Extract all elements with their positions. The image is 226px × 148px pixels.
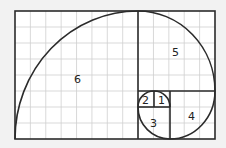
- square-6-label: 6: [74, 73, 81, 86]
- square-4-label: 4: [188, 110, 195, 123]
- square-1-label: 1: [158, 94, 165, 107]
- fibonacci-spiral-diagram: 6 5 4 3 2 1: [0, 0, 226, 148]
- square-5-label: 5: [172, 46, 179, 59]
- square-2-label: 2: [142, 94, 149, 107]
- square-3-label: 3: [150, 117, 157, 130]
